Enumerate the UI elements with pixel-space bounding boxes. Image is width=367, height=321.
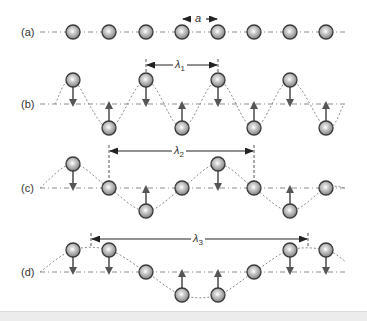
atom-c-1 <box>66 157 80 171</box>
atom-b-1 <box>66 73 80 87</box>
atom-d-4 <box>175 288 189 302</box>
atom-b-2 <box>102 121 116 135</box>
dimension-arrows <box>92 19 307 239</box>
atom-a-2 <box>102 25 116 39</box>
atom-c-3 <box>139 204 153 218</box>
atoms <box>66 25 333 302</box>
atom-b-7 <box>283 73 297 87</box>
atom-b-8 <box>319 121 333 135</box>
atom-a-6 <box>247 25 261 39</box>
wavelength-guides <box>91 59 308 247</box>
atom-c-6 <box>247 181 261 195</box>
atom-c-8 <box>319 181 333 195</box>
atom-a-3 <box>139 25 153 39</box>
atom-c-4 <box>175 181 189 195</box>
atom-b-4 <box>175 121 189 135</box>
wavelength-label-2: λ2 <box>172 144 186 161</box>
spacing-label-a: a <box>193 12 203 24</box>
row-label-c: (c) <box>21 182 34 194</box>
footer-bar <box>0 311 367 321</box>
atom-a-7 <box>283 25 297 39</box>
atom-d-3 <box>139 265 153 279</box>
atom-b-3 <box>139 73 153 87</box>
wavelength-label-1: λ1 <box>173 58 187 75</box>
atom-d-7 <box>283 243 297 257</box>
atom-b-6 <box>247 121 261 135</box>
atom-d-5 <box>211 288 225 302</box>
row-label-b: (b) <box>21 98 34 110</box>
lambda-subscript: 1 <box>180 64 184 73</box>
atom-d-6 <box>247 265 261 279</box>
atom-a-4 <box>175 25 189 39</box>
row-label-a: (a) <box>21 26 34 38</box>
displacement-waves <box>40 80 346 298</box>
atom-c-2 <box>102 181 116 195</box>
atom-d-8 <box>319 243 333 257</box>
atom-d-2 <box>102 243 116 257</box>
row-label-d: (d) <box>21 266 34 278</box>
wavelength-label-3: λ3 <box>191 232 205 249</box>
atom-c-5 <box>211 157 225 171</box>
atom-d-1 <box>66 243 80 257</box>
atom-a-1 <box>66 25 80 39</box>
wave-curve-d <box>40 247 346 298</box>
atom-a-8 <box>319 25 333 39</box>
spacing-symbol: a <box>195 12 201 24</box>
atom-a-5 <box>211 25 225 39</box>
lambda-subscript: 3 <box>198 238 202 247</box>
atom-c-7 <box>283 204 297 218</box>
atom-b-5 <box>211 73 225 87</box>
lambda-subscript: 2 <box>179 150 183 159</box>
